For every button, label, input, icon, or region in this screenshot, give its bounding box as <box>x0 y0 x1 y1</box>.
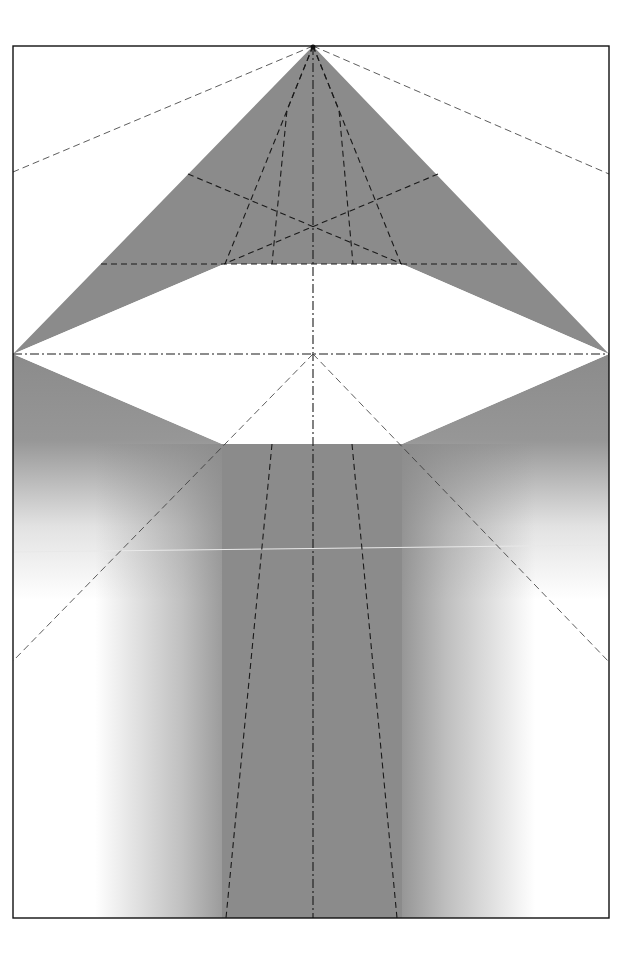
crease-pattern-diagram <box>0 0 633 959</box>
center-column-core <box>222 444 402 918</box>
apex-point <box>311 45 316 50</box>
